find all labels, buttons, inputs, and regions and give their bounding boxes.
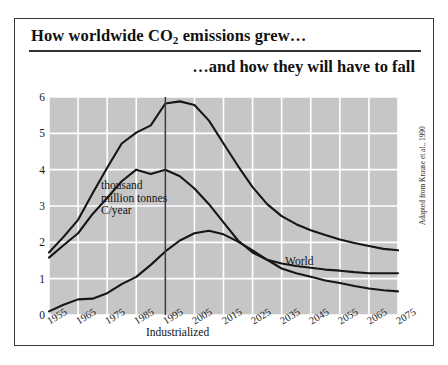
y-tick-label: 2 xyxy=(29,236,45,248)
unit-caption: thousandmillion tonnesC/year xyxy=(101,179,167,217)
series-label-world: World xyxy=(285,255,313,267)
plot-area: thousandmillion tonnesC/year World Indus… xyxy=(49,97,398,315)
unit-caption-line-0: thousand xyxy=(101,179,167,192)
series-curve-world xyxy=(49,101,398,252)
y-axis: 0123456 xyxy=(25,97,45,315)
y-tick-label: 6 xyxy=(29,91,45,103)
x-axis: 1955196519751985199520052015202520352045… xyxy=(49,315,398,355)
y-tick-label: 4 xyxy=(29,164,45,176)
source-credit: Adapted from Krause et al., 1990 xyxy=(418,126,427,225)
plot-wrapper: 0123456 thousandmillion tonnesC/year Wor… xyxy=(15,19,435,347)
y-tick-label: 5 xyxy=(29,127,45,139)
y-tick-label: 1 xyxy=(29,273,45,285)
unit-caption-line-1: million tonnes xyxy=(101,192,167,205)
y-tick-label: 0 xyxy=(29,309,45,321)
y-tick-label: 3 xyxy=(29,200,45,212)
figure-frame: How worldwide CO2 emissions grew… …and h… xyxy=(14,18,434,346)
unit-caption-line-2: C/year xyxy=(101,204,167,217)
